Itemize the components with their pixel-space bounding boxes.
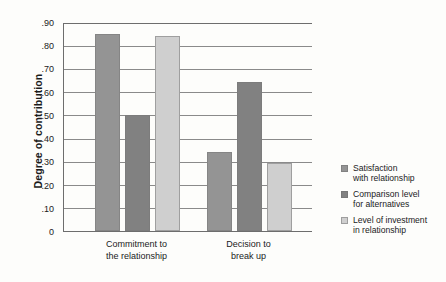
y-tick-label: .90 (41, 18, 54, 28)
legend-label-line: Level of investment (353, 215, 427, 225)
bar-fill (95, 34, 121, 231)
y-tick-label: .80 (41, 41, 54, 51)
plot-area (63, 23, 312, 232)
legend-label: Satisfactionwith relationship (353, 163, 415, 184)
bar-fill (155, 36, 181, 231)
bar (95, 34, 121, 231)
x-tick-label-line: Decision to (189, 239, 309, 251)
legend-label-line: with relationship (353, 173, 415, 183)
legend-label-line: Satisfaction (353, 163, 415, 173)
x-tick-label: Decision tobreak up (189, 239, 309, 262)
legend-label-line: Comparison level (353, 189, 419, 199)
legend-label-line: for alternatives (353, 199, 419, 209)
bar-fill (267, 163, 293, 232)
y-tick-label: .40 (41, 134, 54, 144)
y-tick-label: .50 (41, 111, 54, 121)
gridline (64, 23, 312, 24)
bar-fill (237, 82, 263, 231)
x-tick-label: Commitment tothe relationship (76, 239, 196, 262)
bar (237, 82, 263, 231)
x-tick-label-line: Commitment to (76, 239, 196, 251)
legend-label: Comparison levelfor alternatives (353, 189, 419, 210)
legend-label-line: in relationship (353, 225, 427, 235)
y-tick-label: .60 (41, 88, 54, 98)
bar (125, 115, 151, 231)
legend-swatch-icon (341, 165, 348, 172)
x-tick-label-line: break up (189, 251, 309, 263)
legend-label: Level of investmentin relationship (353, 215, 427, 236)
legend-item[interactable]: Comparison levelfor alternatives (341, 189, 445, 210)
y-tick-label: 0 (49, 227, 54, 237)
y-tick-label: .20 (41, 181, 54, 191)
bar (155, 36, 181, 231)
legend-swatch-icon (341, 217, 348, 224)
y-tick-label: .30 (41, 157, 54, 167)
legend-item[interactable]: Satisfactionwith relationship (341, 163, 445, 184)
y-tick-label: .70 (41, 64, 54, 74)
x-tick-label-line: the relationship (76, 251, 196, 263)
bar (267, 163, 293, 232)
legend-swatch-icon (341, 191, 348, 198)
bar (207, 152, 233, 231)
legend-item[interactable]: Level of investmentin relationship (341, 215, 445, 236)
bar-chart-figure: Degree of contribution .90.80.70.60.50.4… (0, 0, 446, 282)
bar-fill (125, 115, 151, 231)
chart-legend: Satisfactionwith relationshipComparison … (341, 163, 445, 240)
bar-fill (207, 152, 233, 231)
y-tick-label: .10 (41, 204, 54, 214)
y-axis-tick-labels: .90.80.70.60.50.40.30.20.100 (0, 0, 60, 282)
